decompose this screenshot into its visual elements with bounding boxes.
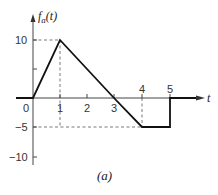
y-tick-neg5: −5 <box>15 121 28 133</box>
t-tick-1: 1 <box>57 102 63 114</box>
t-tick-5: 5 <box>167 83 173 95</box>
t-ticks <box>60 94 170 98</box>
y-tick-neg10: −10 <box>9 151 28 163</box>
signal-plot: fa(t) t 0 1 2 3 4 5 10 −5 −10 (a) <box>0 0 218 195</box>
t-tick-4: 4 <box>139 83 145 95</box>
t-tick-3: 3 <box>111 102 117 114</box>
t-tick-2: 2 <box>84 102 90 114</box>
y-tick-10: 10 <box>15 34 27 46</box>
origin-label: 0 <box>23 102 29 114</box>
y-axis-arrow-icon <box>31 14 36 22</box>
t-axis-arrow-icon <box>196 96 205 101</box>
y-axis-label: fa(t) <box>38 9 57 25</box>
figure-caption: (a) <box>97 168 112 183</box>
t-axis-label: t <box>207 91 211 105</box>
